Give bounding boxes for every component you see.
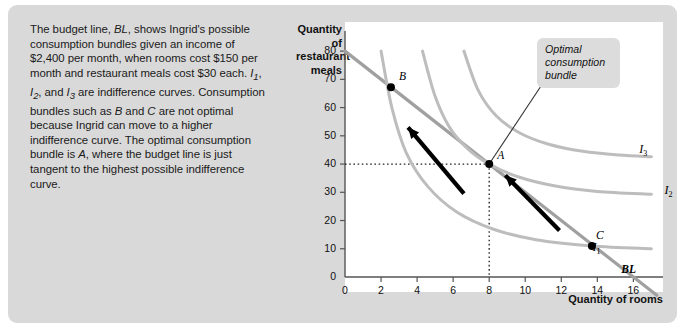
caption-run: , [259,67,262,79]
caption-run: The budget line, [30,23,114,35]
optimal-bundle-callout: Optimal consumption bundle [537,38,620,88]
x-tick-label: 0 [335,284,355,296]
curve-label-I1: I1 [593,240,601,256]
x-tick-label: 2 [371,284,391,296]
figure-root: The budget line, BL, shows Ingrid's poss… [0,0,686,332]
x-tick-label: 8 [479,284,499,296]
x-tick-label: 16 [623,284,643,296]
y-tick-label: 70 [312,72,336,84]
y-tick-label: 40 [312,157,336,169]
y-tick-label: 50 [312,129,336,141]
guide-lines-layer [345,164,489,277]
callout-line-1: Optimal [545,43,613,56]
x-tick-label: 14 [587,284,607,296]
curve-label-I2: I2 [665,183,673,199]
caption-run: , and [38,86,66,98]
point-label-A: A [497,149,504,161]
caption-run: BL [114,23,128,35]
point-label-B: B [399,70,406,82]
movement-arrow-shaft-2 [505,175,559,230]
caption-run: and [122,105,147,117]
x-tick-label: 10 [515,284,535,296]
x-tick-label: 6 [443,284,463,296]
curve-label-BL: BL [621,263,636,275]
callout-line-3: bundle [545,69,613,82]
y-tick-label: 30 [312,185,336,197]
y-tick-label: 0 [312,270,336,282]
callout-line-2: consumption [545,56,613,69]
data-point-A [485,160,493,168]
y-tick-label: 80 [312,44,336,56]
data-point-B [387,83,395,91]
figure-caption: The budget line, BL, shows Ingrid's poss… [30,22,270,191]
y-tick-label: 60 [312,101,336,113]
y-tick-label: 20 [312,214,336,226]
chart-area: Quantity of restaurant meals Quantity of… [296,14,663,310]
caption-run: A [78,148,86,160]
caption-run: C [147,105,155,117]
x-tick-label: 4 [407,284,427,296]
arrows-layer [408,127,559,230]
x-tick-label: 12 [551,284,571,296]
y-tick-label: 10 [312,242,336,254]
curve-label-I3: I3 [639,142,647,158]
